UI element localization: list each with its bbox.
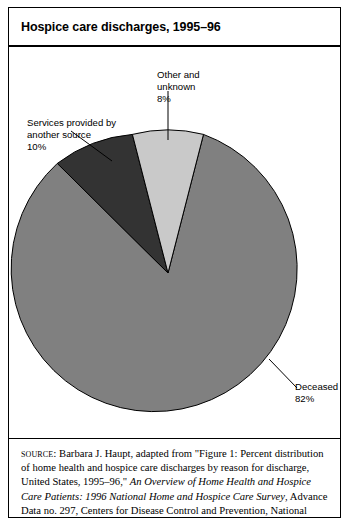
source-note: Source: Barbara J. Haupt, adapted from "… (21, 446, 329, 518)
source-label: Source: (21, 447, 56, 459)
pie-label-services: Services provided by another source 10% (27, 117, 116, 154)
pie-label-other: Other and unknown 8% (157, 69, 200, 106)
page-title: Hospice care discharges, 1995–96 (21, 20, 221, 34)
pie-chart (9, 47, 340, 438)
leader-line-deceased (269, 359, 297, 388)
figure-title-bar: Hospice care discharges, 1995–96 (9, 8, 340, 46)
source-divider (9, 438, 340, 439)
pie-chart-area: Other and unknown 8% Services provided b… (9, 47, 340, 438)
figure-container: Hospice care discharges, 1995–96 Other a… (8, 7, 341, 518)
pie-label-deceased: Deceased 82% (295, 381, 338, 405)
